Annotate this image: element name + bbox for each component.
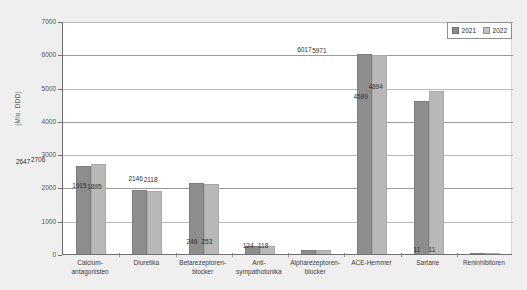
bar-group [232,21,288,254]
bar-2022[interactable] [91,164,106,254]
x-axis-category-label: Sartane [400,259,456,268]
x-axis-category-label: Alpharezeptoren- blocker [287,259,343,276]
bar-value-label: 1895 [84,183,104,190]
y-axis-tick-label: 2000 [12,184,56,191]
y-axis-tick-label: 4000 [12,118,56,125]
bar-value-label: 2706 [28,156,48,163]
bar-group [63,21,119,254]
bar-group [344,21,400,254]
bar-group [176,21,232,254]
bar-value-label: 253 [197,238,217,245]
bar-2021[interactable] [470,253,485,254]
bar-value-label: 118 [253,242,273,249]
y-axis-tick-mark [58,255,62,256]
x-axis-category-label: ACE-Hemmer [343,259,399,268]
bar-2022[interactable] [429,91,444,254]
bar-value-label: 11 [422,246,442,253]
y-axis-title: (Mio. DDD) [14,64,21,154]
bar-2022[interactable] [147,191,162,254]
bar-2021[interactable] [414,101,429,254]
y-axis-tick-label: 1000 [12,218,56,225]
bar-2021[interactable] [76,166,91,254]
bar-group [401,21,457,254]
bar-2021[interactable] [132,190,147,254]
x-axis-category-label: Betarezeptoren- blocker [175,259,231,276]
bar-value-label: 2118 [141,176,161,183]
legend-label-2021: 2021 [462,27,476,34]
legend-label-2022: 2022 [493,27,507,34]
bar-2022[interactable] [485,253,500,254]
y-axis-tick-label: 0 [12,251,56,258]
bar-2021[interactable] [301,250,316,254]
bar-value-label: 4894 [366,83,386,90]
legend-swatch-2021-icon [452,27,459,34]
bar-group [288,21,344,254]
chart-legend: 2021 2022 [447,22,512,39]
y-axis-tick-label: 7000 [12,18,56,25]
x-axis-category-label: Diuretika [118,259,174,268]
legend-swatch-2022-icon [483,27,490,34]
legend-item-2022[interactable]: 2022 [483,27,507,34]
y-axis-tick-label: 5000 [12,85,56,92]
plot-area [62,22,512,255]
bar-value-label: 4599 [351,93,371,100]
x-axis-category-label: Calcium- antagonisten [62,259,118,276]
y-axis-tick-label: 6000 [12,51,56,58]
x-axis-category-label: Anti- sympathotonika [231,259,287,276]
bar-value-label: 5971 [309,47,329,54]
legend-item-2021[interactable]: 2021 [452,27,476,34]
bar-2022[interactable] [316,250,331,254]
bar-group [457,21,513,254]
x-axis-category-label: Reninhibitoren [456,259,512,268]
bar-group [119,21,175,254]
bar-chart: (Mio. DDD) 01000200030004000500060007000… [0,0,527,290]
